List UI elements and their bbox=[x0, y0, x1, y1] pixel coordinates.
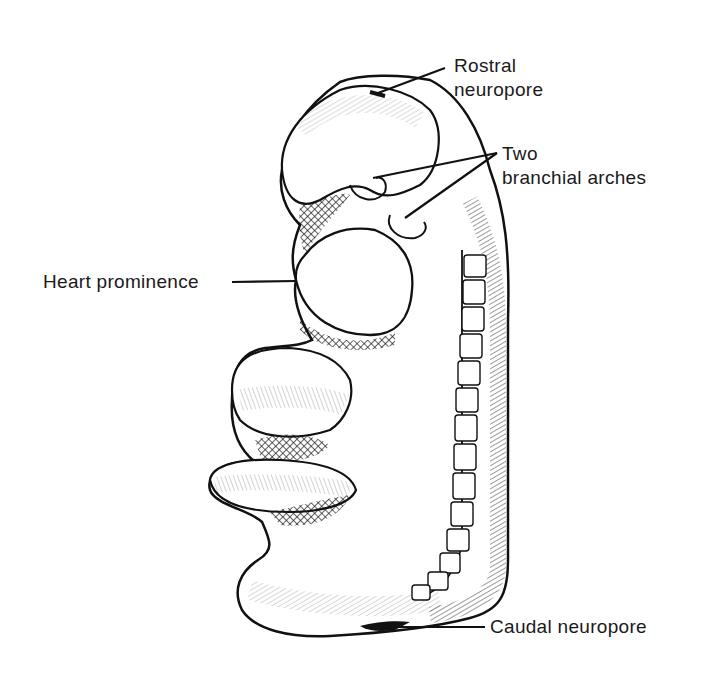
label-rostral-line1: Rostral bbox=[454, 54, 543, 78]
label-branchial-line2: branchial arches bbox=[502, 166, 646, 190]
label-caudal-neuropore: Caudal neuropore bbox=[490, 615, 647, 639]
embryo-illustration bbox=[0, 0, 701, 681]
label-rostral-line2: neuropore bbox=[454, 78, 543, 102]
label-branchial-arches: Two branchial arches bbox=[502, 142, 646, 190]
label-heart-prominence: Heart prominence bbox=[43, 270, 199, 294]
label-branchial-line1: Two bbox=[502, 142, 646, 166]
heart-prominence-leader bbox=[232, 281, 296, 282]
label-rostral-neuropore: Rostral neuropore bbox=[454, 54, 543, 102]
